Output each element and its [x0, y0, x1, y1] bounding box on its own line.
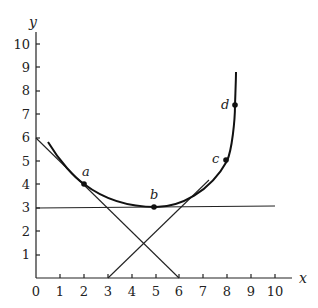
y-tick-9: 9: [22, 60, 30, 75]
x-tick-3: 3: [104, 284, 112, 299]
axes: [36, 32, 292, 278]
x-tick-10: 10: [267, 284, 284, 299]
x-tick-1: 1: [56, 284, 64, 299]
labeled-points: a b c d: [81, 97, 238, 210]
diagram-canvas: 0 1 2 3 4 5 6 7 8 9 10 1 2 3 4 5 6 7 8 9…: [0, 0, 318, 308]
y-tick-2: 2: [22, 224, 30, 239]
y-tick-10: 10: [13, 37, 30, 52]
point-d: [232, 102, 238, 108]
x-tick-0: 0: [32, 284, 40, 299]
point-d-label: d: [221, 97, 229, 112]
u-shaped-curve: [48, 72, 236, 207]
point-c: [223, 157, 229, 163]
y-tick-7: 7: [22, 107, 30, 122]
y-tick-8: 8: [22, 83, 30, 98]
point-b-label: b: [150, 187, 158, 202]
y-tick-3: 3: [22, 200, 30, 215]
x-tick-6: 6: [175, 284, 183, 299]
x-tick-5: 5: [152, 284, 160, 299]
x-tick-2: 2: [80, 284, 88, 299]
x-tick-7: 7: [199, 284, 207, 299]
y-tick-5: 5: [22, 154, 30, 169]
x-tick-8: 8: [223, 284, 231, 299]
point-c-label: c: [212, 151, 220, 166]
y-axis-label: y: [28, 14, 38, 30]
y-tick-labels: 1 2 3 4 5 6 7 8 9 10: [13, 37, 30, 262]
point-a: [81, 181, 87, 187]
x-tick-4: 4: [128, 284, 136, 299]
point-a-label: a: [82, 164, 90, 179]
y-tick-1: 1: [22, 247, 30, 262]
x-axis-label: x: [299, 270, 307, 286]
point-b: [151, 204, 157, 210]
x-tick-labels: 0 1 2 3 4 5 6 7 8 9 10: [32, 284, 283, 299]
x-tick-9: 9: [247, 284, 255, 299]
y-tick-6: 6: [22, 130, 30, 145]
y-tick-4: 4: [22, 177, 30, 192]
